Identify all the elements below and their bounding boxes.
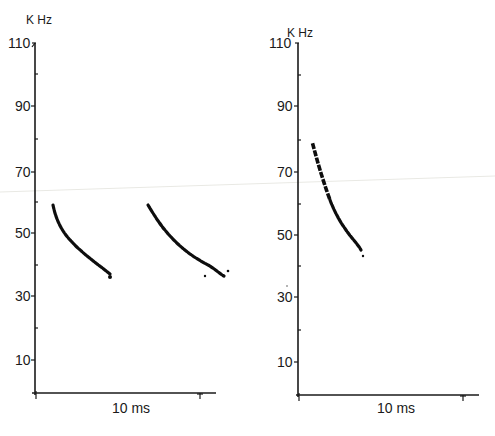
left-call-1 (53, 205, 110, 274)
left-ytick-50: 50 (15, 225, 31, 241)
right-call-1-upper (313, 145, 330, 200)
left-ytick-110: 110 (8, 35, 31, 51)
right-ytick-50: 50 (277, 227, 293, 243)
right-ytick-110: 110 (269, 35, 292, 51)
left-call-2 (148, 205, 224, 276)
right-panel: K Hz 110 90 70 50 30 10 10 ms (269, 26, 479, 416)
left-ytick-70: 70 (15, 164, 31, 180)
left-ytick-30: 30 (15, 288, 31, 304)
right-call-1-lower (330, 200, 361, 250)
left-x-scale-label: 10 ms (112, 400, 150, 416)
left-ytick-90: 90 (15, 98, 31, 114)
right-ytick-90: 90 (277, 98, 293, 114)
left-ytick-10: 10 (15, 352, 31, 368)
right-x-scale-label: 10 ms (377, 400, 415, 416)
figure: K Hz 110 90 70 50 30 10 10 ms (0, 0, 495, 436)
left-y-unit: K Hz (26, 13, 52, 27)
right-ytick-70: 70 (277, 164, 293, 180)
right-ytick-30: 30 (277, 289, 293, 305)
right-ytick-10: 10 (277, 354, 293, 370)
scan-artifact (0, 176, 495, 192)
left-panel: K Hz 110 90 70 50 30 10 10 ms (8, 13, 229, 416)
